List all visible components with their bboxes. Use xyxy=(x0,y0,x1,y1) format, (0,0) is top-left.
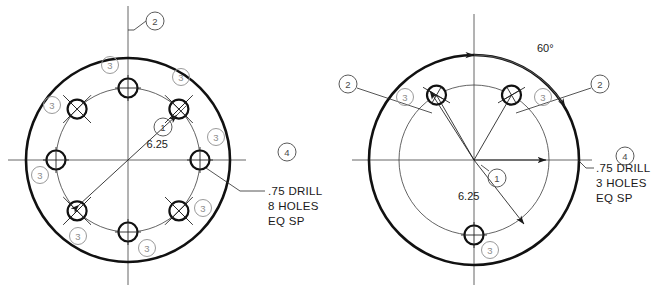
balloon-1-right-label: 1 xyxy=(494,173,499,184)
svg-text:3: 3 xyxy=(402,92,407,103)
svg-text:3: 3 xyxy=(144,243,149,254)
note-line-1-right: .75 DRILL xyxy=(596,162,651,174)
note-line-3-right: EQ SP xyxy=(596,192,633,204)
hole-upper-right xyxy=(165,95,193,123)
svg-text:3: 3 xyxy=(540,92,545,103)
note-line-1-left: .75 DRILL xyxy=(268,185,323,197)
note-line-2-right: 3 HOLES xyxy=(596,177,647,189)
balloon-2-left-label: 2 xyxy=(152,16,157,27)
svg-text:3: 3 xyxy=(37,170,42,181)
svg-text:2: 2 xyxy=(597,79,602,90)
dimension-value-right: 6.25 xyxy=(458,190,479,202)
balloon-1-left-label: 1 xyxy=(160,122,165,133)
svg-text:3: 3 xyxy=(178,72,183,83)
svg-text:3: 3 xyxy=(75,231,80,242)
balloon-4-right-label: 4 xyxy=(622,151,627,162)
svg-text:3: 3 xyxy=(200,203,205,214)
svg-text:3: 3 xyxy=(487,245,492,256)
note-line-2-left: 8 HOLES xyxy=(268,200,319,212)
svg-text:2: 2 xyxy=(345,79,350,90)
canvas-background xyxy=(0,0,665,291)
svg-text:3: 3 xyxy=(49,100,54,111)
note-line-3-left: EQ SP xyxy=(268,215,305,227)
balloon-4-left-label: 4 xyxy=(284,147,289,158)
technical-drawing-canvas: 6.25 .75 DRILL 8 HOLES EQ SP 1 2 4 3 xyxy=(0,0,665,291)
hole-lower-right xyxy=(165,197,193,225)
dimension-value-left: 6.25 xyxy=(147,138,168,150)
hole-lower-left xyxy=(63,197,91,225)
hole-upper-left xyxy=(63,95,91,123)
svg-text:3: 3 xyxy=(213,132,218,143)
svg-text:3: 3 xyxy=(107,60,112,71)
angle-dimension-value: 60° xyxy=(537,42,554,54)
